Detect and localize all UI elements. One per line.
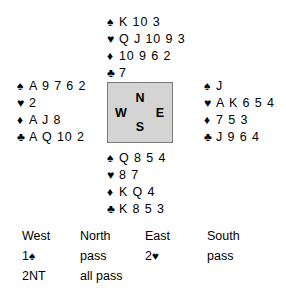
auction-header-north: North: [80, 226, 122, 246]
hand-west-hearts: ♥ 2: [17, 95, 86, 112]
hand-west-clubs-ranks: A Q 10 2: [29, 129, 85, 146]
hand-north: ♠ K 10 3 ♥ Q J 10 9 3 ♦ 10 9 6 2 ♣ 7: [107, 14, 186, 82]
auction-bid-east-2: [145, 266, 170, 286]
club-icon: ♣: [17, 129, 29, 146]
hand-south: ♠ Q 8 5 4 ♥ 8 7 ♦ K Q 4 ♣ K 8 5 3: [107, 150, 166, 218]
club-icon: ♣: [204, 129, 216, 146]
auction-bid-east-1-level: 2: [145, 249, 152, 263]
hand-east-diamonds-ranks: 7 5 3: [216, 112, 248, 129]
compass-box: N W E S: [107, 82, 173, 143]
auction-header-west: West: [22, 226, 50, 246]
hand-north-hearts: ♥ Q J 10 9 3: [107, 31, 186, 48]
diamond-icon: ♦: [107, 48, 119, 65]
compass-east-label: E: [156, 106, 164, 119]
hand-north-clubs: ♣ 7: [107, 65, 186, 82]
hand-south-hearts: ♥ 8 7: [107, 167, 166, 184]
auction-bid-south-2: [207, 266, 240, 286]
spade-icon: ♠: [17, 78, 29, 95]
club-icon: ♣: [107, 201, 119, 218]
heart-icon: ♥: [204, 95, 216, 112]
heart-icon: ♥: [107, 167, 119, 184]
hand-east-spades-ranks: J: [216, 78, 223, 95]
auction-bid-north-2: all pass: [80, 266, 122, 286]
auction-header-east: East: [145, 226, 170, 246]
hand-west-spades: ♠ A 9 7 6 2: [17, 78, 86, 95]
compass-west-label: W: [115, 106, 127, 119]
auction-column-north: North pass all pass: [80, 226, 122, 286]
spade-icon: ♠: [107, 14, 119, 31]
spade-icon: ♠: [204, 78, 216, 95]
hand-east-clubs-ranks: J 9 6 4: [216, 129, 260, 146]
hand-south-clubs: ♣ K 8 5 3: [107, 201, 166, 218]
hand-east: ♠ J ♥ A K 6 5 4 ♦ 7 5 3 ♣ J 9 6 4: [204, 78, 275, 146]
auction-bid-east-1: 2♥: [145, 246, 170, 266]
hand-south-clubs-ranks: K 8 5 3: [119, 201, 165, 218]
compass-north-label: N: [108, 92, 172, 105]
diamond-icon: ♦: [17, 112, 29, 129]
hand-west-diamonds: ♦ A J 8: [17, 112, 86, 129]
club-icon: ♣: [107, 65, 119, 82]
diamond-icon: ♦: [204, 112, 216, 129]
hand-south-hearts-ranks: 8 7: [119, 167, 139, 184]
heart-icon: ♥: [107, 31, 119, 48]
heart-icon: ♥: [17, 95, 29, 112]
auction-bid-south-1: pass: [207, 246, 240, 266]
hand-north-clubs-ranks: 7: [119, 65, 127, 82]
hand-north-diamonds-ranks: 10 9 6 2: [119, 48, 171, 65]
auction-column-east: East 2♥: [145, 226, 170, 286]
auction-column-west: West 1♠ 2NT: [22, 226, 50, 286]
hand-west: ♠ A 9 7 6 2 ♥ 2 ♦ A J 8 ♣ A Q 10 2: [17, 78, 86, 146]
auction-column-south: South pass: [207, 226, 240, 286]
auction-bid-north-1: pass: [80, 246, 122, 266]
auction-bid-west-2-text: 2NT: [22, 269, 46, 283]
auction-bid-west-1-level: 1: [22, 249, 29, 263]
hand-north-diamonds: ♦ 10 9 6 2: [107, 48, 186, 65]
hand-south-diamonds-ranks: K Q 4: [119, 184, 155, 201]
diamond-icon: ♦: [107, 184, 119, 201]
hand-north-spades: ♠ K 10 3: [107, 14, 186, 31]
auction-bid-south-1-text: pass: [207, 249, 233, 263]
auction-header-south: South: [207, 226, 240, 246]
hand-north-spades-ranks: K 10 3: [119, 14, 161, 31]
auction-bid-north-1-text: pass: [80, 249, 106, 263]
auction-bid-north-2-text: all pass: [80, 269, 122, 283]
hand-east-hearts-ranks: A K 6 5 4: [216, 95, 275, 112]
auction-bid-west-1: 1♠: [22, 246, 50, 266]
hand-south-spades-ranks: Q 8 5 4: [119, 150, 166, 167]
compass-south-label: S: [108, 121, 172, 134]
hand-south-diamonds: ♦ K Q 4: [107, 184, 166, 201]
hand-west-clubs: ♣ A Q 10 2: [17, 129, 86, 146]
hand-east-spades: ♠ J: [204, 78, 275, 95]
hand-east-diamonds: ♦ 7 5 3: [204, 112, 275, 129]
spade-icon: ♠: [29, 250, 35, 262]
auction-bid-west-2: 2NT: [22, 266, 50, 286]
hand-west-diamonds-ranks: A J 8: [29, 112, 61, 129]
heart-icon: ♥: [152, 250, 159, 262]
spade-icon: ♠: [107, 150, 119, 167]
hand-west-spades-ranks: A 9 7 6 2: [29, 78, 86, 95]
hand-west-hearts-ranks: 2: [29, 95, 37, 112]
hand-east-hearts: ♥ A K 6 5 4: [204, 95, 275, 112]
hand-north-hearts-ranks: Q J 10 9 3: [119, 31, 186, 48]
hand-south-spades: ♠ Q 8 5 4: [107, 150, 166, 167]
hand-east-clubs: ♣ J 9 6 4: [204, 129, 275, 146]
